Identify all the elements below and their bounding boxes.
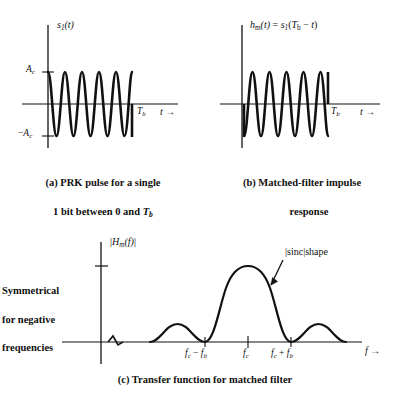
panel-a-label-tb: Tb xyxy=(137,106,146,117)
panel-b-y-axis-label: hm(t) = s1(Tb − t) xyxy=(250,19,317,32)
panel-b-y-label-h-arg: (t) xyxy=(261,19,270,30)
panel-c-caption: (c) Transfer function for matched filter xyxy=(60,373,350,387)
panel-c-label-fc-minus-fb: fc − fb xyxy=(185,348,207,359)
sinc-annotation-tail: shape xyxy=(305,246,328,257)
panel-b-label-tb-sub: b xyxy=(336,110,339,117)
panel-b-caption-line1: (b) Matched-filter impulse xyxy=(212,176,392,190)
sinc-shape-annotation: |sinc|shape xyxy=(285,246,328,257)
panel-a-caption-line1: (a) PRK pulse for a single xyxy=(18,176,188,190)
panel-b-label-tb: Tb xyxy=(331,106,340,117)
panel-c-right-side-lobe xyxy=(291,324,346,342)
sinc-annotation-word: sinc xyxy=(287,246,303,257)
panel-a-prk-pulse: s1(t) Ac −Ac Tb t → xyxy=(0,0,200,160)
panel-c-y-axis-label: |Hm(f)| xyxy=(110,236,136,249)
panel-c-y-label-bar-close: | xyxy=(134,236,136,247)
figure-root: s1(t) Ac −Ac Tb t → (a) PRK pulse for a … xyxy=(0,0,403,407)
panel-a-label-ac: Ac xyxy=(26,64,35,75)
symmetry-note-line1: Symmetrical xyxy=(2,284,92,298)
panel-c-left-side-lobe xyxy=(150,324,205,342)
symmetry-note-line3: frequencies xyxy=(2,341,92,355)
panel-b-x-axis-label: t → xyxy=(360,106,375,117)
label-fcmfb-post-sub: b xyxy=(203,352,206,359)
axis-break-icon xyxy=(108,336,123,345)
panel-a-label-neg-ac-sub: c xyxy=(29,132,32,139)
panel-c-x-axis-label: f → xyxy=(365,345,380,356)
panel-a-label-ac-sub: c xyxy=(32,68,35,75)
panel-a-x-axis-label: t → xyxy=(160,106,175,117)
panel-b-y-label-paren-close: ) xyxy=(314,19,317,30)
label-fc-pre-sub: c xyxy=(246,352,249,359)
panel-c-transfer-function: |Hm(f)| Symmetrical for negative frequen… xyxy=(0,212,403,372)
panel-b-impulse-response: hm(t) = s1(Tb − t) Tb t → xyxy=(200,0,403,160)
panel-c-label-fc: fc xyxy=(243,348,249,359)
panel-c-label-fc-plus-fb: fc + fb xyxy=(271,348,293,359)
symmetry-note-line2: for negative xyxy=(2,313,92,327)
panel-c-y-label-arg: (f) xyxy=(124,236,133,247)
panel-c-symmetry-note: Symmetrical for negative frequencies xyxy=(2,270,92,369)
label-fcpfb-post-sub: b xyxy=(289,352,292,359)
panel-a-y-axis-label: s1(t) xyxy=(57,19,74,32)
panel-c-main-lobe xyxy=(205,266,291,342)
panel-a-label-neg-ac: −Ac xyxy=(18,128,32,139)
panel-a-y-axis-label-arg: (t) xyxy=(65,19,74,30)
panel-a-label-tb-sub: b xyxy=(142,110,145,117)
sinc-annotation-arrowhead-icon xyxy=(271,278,278,286)
